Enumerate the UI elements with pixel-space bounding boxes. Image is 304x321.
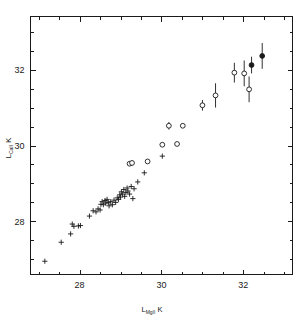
data-point-circle-open — [247, 76, 252, 102]
x-tick-label: 30 — [156, 280, 166, 290]
data-point-plus — [130, 196, 135, 201]
data-point-plus — [59, 240, 64, 245]
plot-canvas: 283032 283032 LMgII K LCaII K — [0, 0, 304, 321]
data-point-circle-open — [166, 122, 171, 130]
x-axis-title-tail: K — [155, 305, 162, 314]
data-point-plus — [68, 231, 73, 236]
data-point-plus — [87, 213, 92, 218]
y-tick-label: 28 — [14, 217, 24, 227]
data-point-plus — [135, 179, 140, 184]
x-tick-label: 32 — [238, 280, 248, 290]
data-point-circle-filled — [249, 57, 254, 74]
svg-text:LCaII K: LCaII K — [4, 138, 14, 158]
svg-text:LMgII K: LMgII K — [142, 305, 163, 315]
y-tick-label: 30 — [14, 141, 24, 151]
data-point-plus — [91, 208, 96, 213]
data-point-plus — [160, 154, 165, 159]
data-points-layer — [42, 43, 264, 264]
x-tick-label: 28 — [75, 280, 85, 290]
data-point-circle-open — [242, 61, 247, 87]
scatter-plot-figure: 283032 283032 LMgII K LCaII K — [0, 0, 304, 321]
x-axis-title-subscript: MgII — [146, 309, 156, 315]
data-point-circle-open — [130, 161, 135, 166]
data-point-circle-open — [145, 159, 150, 164]
y-axis-tick-labels: 283032 — [14, 65, 24, 227]
y-axis-title-subscript: CaII — [8, 145, 14, 154]
data-point-plus — [42, 259, 47, 264]
data-point-circle-open — [200, 100, 205, 111]
data-point-circle-open — [232, 63, 237, 83]
y-axis-title-tail: K — [4, 138, 13, 145]
data-point-circle-filled — [260, 43, 265, 69]
x-axis-title: LMgII K — [142, 305, 163, 315]
data-point-circle-open — [213, 83, 218, 107]
data-point-circle-open — [160, 142, 165, 147]
data-point-plus — [131, 186, 136, 191]
y-axis-title: LCaII K — [4, 138, 14, 158]
x-axis-tick-labels: 283032 — [75, 280, 249, 290]
y-tick-label: 32 — [14, 65, 24, 75]
data-point-circle-open — [175, 142, 180, 147]
data-point-plus — [142, 170, 147, 175]
data-point-circle-open — [180, 123, 185, 128]
